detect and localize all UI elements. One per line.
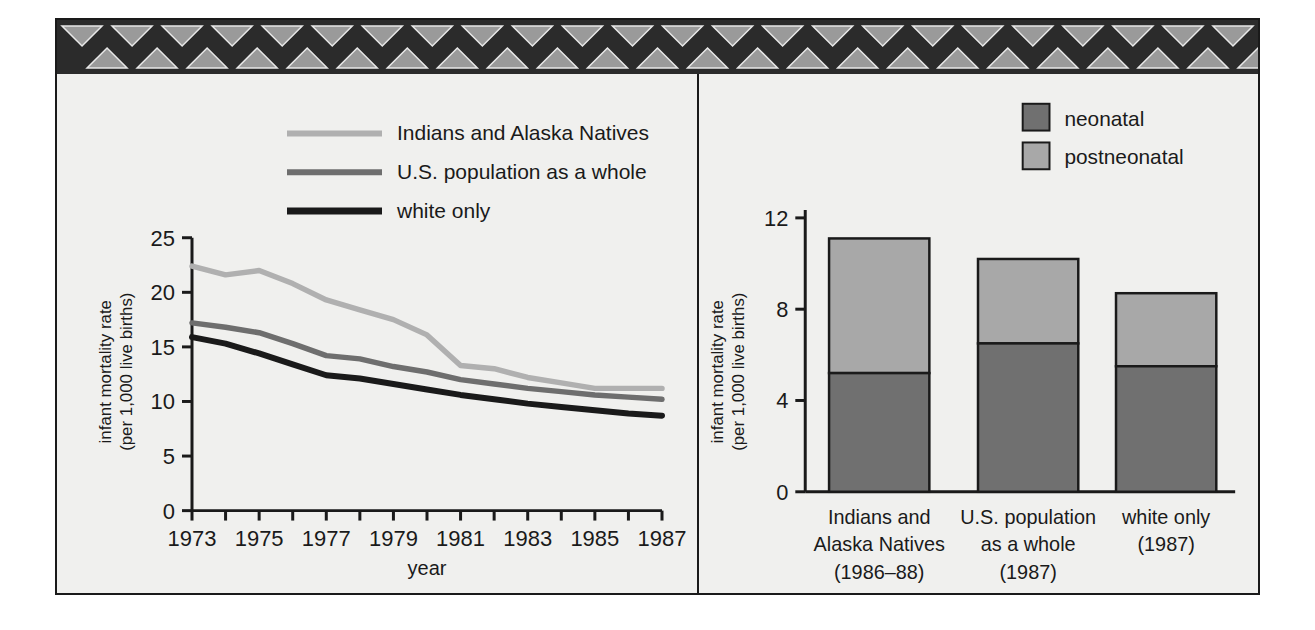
line-chart-legend: Indians and Alaska Natives U.S. populati… <box>287 122 649 222</box>
bar-category-label: Indians and <box>828 506 931 528</box>
y-tick-label: 12 <box>764 206 788 231</box>
bar-segment-postneonatal <box>1116 293 1216 366</box>
bar-segment-postneonatal <box>978 259 1078 343</box>
bar-category-label: U.S. population <box>960 506 1096 528</box>
line-chart-panel: Indians and Alaska Natives U.S. populati… <box>57 74 697 593</box>
legend-label-neonatal: neonatal <box>1064 107 1144 130</box>
x-tick-label: 1977 <box>302 526 351 551</box>
y-tick-label: 0 <box>776 480 788 505</box>
bar-chart-category-labels: Indians andAlaska Natives(1986–88)U.S. p… <box>814 506 1211 584</box>
line-chart-xlabel: year <box>408 557 447 579</box>
bar-chart-bars-group <box>829 238 1216 491</box>
bar-segment-neonatal <box>978 343 1078 491</box>
y-tick-label: 15 <box>151 335 175 360</box>
legend-swatch-postneonatal <box>1023 142 1050 169</box>
line-chart-y-ticks: 0510152025 <box>151 226 192 524</box>
bar-chart-panel: neonatal postneonatal infant mortality r… <box>697 74 1258 593</box>
y-tick-label: 25 <box>151 226 175 251</box>
bar-chart-legend: neonatal postneonatal <box>1023 104 1184 169</box>
legend-label-postneonatal: postneonatal <box>1064 145 1183 168</box>
x-tick-label: 1981 <box>436 526 485 551</box>
bar-category-label: white only <box>1121 506 1210 528</box>
figure-frame: Indians and Alaska Natives U.S. populati… <box>55 18 1260 595</box>
line-series-white-only <box>192 337 662 416</box>
legend-swatch-neonatal <box>1023 104 1050 131</box>
x-tick-label: 1987 <box>638 526 687 551</box>
bar-chart-ylabel-line2: (per 1,000 live births) <box>729 293 748 451</box>
bar-category-label: Alaska Natives <box>814 533 945 555</box>
x-tick-label: 1985 <box>570 526 619 551</box>
y-tick-label: 10 <box>151 389 175 414</box>
bar-segment-neonatal <box>1116 366 1216 492</box>
y-tick-label: 5 <box>163 444 175 469</box>
figure-page: Indians and Alaska Natives U.S. populati… <box>0 0 1315 630</box>
line-chart-svg: Indians and Alaska Natives U.S. populati… <box>57 74 697 593</box>
line-chart-x-ticks: 19731975197719791981198319851987 <box>168 511 687 552</box>
line-chart-ylabel-line2: (per 1,000 live births) <box>117 293 136 451</box>
y-tick-label: 20 <box>151 280 175 305</box>
x-tick-label: 1979 <box>369 526 418 551</box>
bar-category-label: (1987) <box>1137 533 1194 555</box>
triangle-band-graphic <box>57 20 1258 74</box>
legend-label-white-only: white only <box>396 199 491 222</box>
x-tick-label: 1975 <box>235 526 284 551</box>
legend-label-us-population: U.S. population as a whole <box>397 160 647 183</box>
y-tick-label: 4 <box>776 388 788 413</box>
bar-category-label: (1986–88) <box>834 561 925 583</box>
triangle-border-band <box>57 20 1258 74</box>
x-tick-label: 1983 <box>503 526 552 551</box>
legend-label-indians: Indians and Alaska Natives <box>397 122 649 145</box>
bar-segment-postneonatal <box>829 238 929 373</box>
bar-category-label: (1987) <box>999 561 1056 583</box>
line-chart-series-group <box>192 266 662 416</box>
x-tick-label: 1973 <box>168 526 217 551</box>
bar-chart-y-ticks: 04812 <box>764 206 805 505</box>
line-chart-ylabel-line1: infant mortality rate <box>96 300 115 443</box>
y-tick-label: 0 <box>163 499 175 524</box>
bar-segment-neonatal <box>829 373 929 492</box>
bar-chart-svg: neonatal postneonatal infant mortality r… <box>699 74 1258 593</box>
bar-category-label: as a whole <box>981 533 1076 555</box>
bar-chart-ylabel-line1: infant mortality rate <box>708 300 727 443</box>
y-tick-label: 8 <box>776 297 788 322</box>
